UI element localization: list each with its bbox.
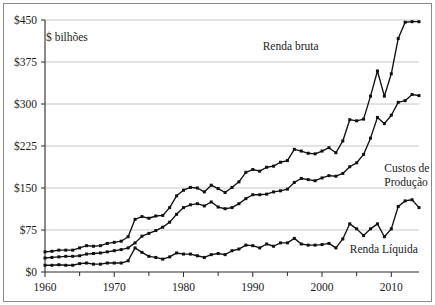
series-point [348,118,351,121]
series-point [362,234,365,237]
series-point [321,150,324,153]
series-point [307,178,310,181]
series-point [272,245,275,248]
series-point [168,255,171,258]
series-point [154,256,157,259]
series-point [64,255,67,258]
series-point [369,95,372,98]
series-point [50,264,53,267]
series-point [258,246,261,249]
series-point [85,262,88,265]
series-point [314,244,317,247]
series-point [383,235,386,238]
series-point [210,201,213,204]
series-point [57,263,60,266]
series-point [127,235,130,238]
series-point [418,20,421,23]
series-point [327,242,330,245]
series-point [217,206,220,209]
series-point [286,188,289,191]
series-point [147,255,150,258]
series-point [355,227,358,230]
series-point [293,237,296,240]
series-point [411,20,414,23]
series-point [196,187,199,190]
series-point [44,250,47,253]
series-1 [44,20,421,253]
series-point [127,259,130,262]
series-point [369,137,372,140]
series-point [64,249,67,252]
series-point [244,244,247,247]
series-point [272,165,275,168]
series-point [272,190,275,193]
series-point [397,37,400,40]
series-point [57,255,60,258]
series-point [231,249,234,252]
series-point [78,246,81,249]
series-point [300,150,303,153]
series-point [120,262,123,265]
series-point [341,172,344,175]
series-point [404,199,407,202]
y-tick-label: $75 [20,224,38,236]
series-point [147,232,150,235]
series-point [99,263,102,266]
series-point [355,161,358,164]
y-tick-label: $150 [14,182,37,194]
series-point [397,101,400,104]
series-point [300,243,303,246]
series-point [334,151,337,154]
series-point [251,244,254,247]
series-point [390,114,393,117]
series-point [348,165,351,168]
series-point [189,186,192,189]
series-point [168,206,171,209]
series-annotation-label: Renda bruta [263,40,319,52]
series-point [106,250,109,253]
series-point [321,243,324,246]
series-point [411,198,414,201]
series-line [45,22,419,252]
series-point [265,243,268,246]
series-point [224,191,227,194]
series-point [182,189,185,192]
series-point [265,166,268,169]
series-point [279,241,282,244]
series-point [224,253,227,256]
series-point [224,207,227,210]
series-point [327,174,330,177]
series-point [175,251,178,254]
series-point [376,69,379,72]
x-tick-label: 1970 [103,281,126,293]
series-point [244,171,247,174]
series-point [314,152,317,155]
series-point [307,244,310,247]
series-point [279,161,282,164]
series-point [182,253,185,256]
series-point [314,179,317,182]
series-point [397,205,400,208]
y-tick-label: $225 [14,140,37,152]
series-point [44,264,47,267]
series-point [258,170,261,173]
series-point [279,189,282,192]
gridlines [45,20,419,230]
series-point [113,249,116,252]
series-point [92,263,95,266]
series-point [376,222,379,225]
series-point [348,222,351,225]
series-point [154,229,157,232]
series-point [383,122,386,125]
series-point [203,256,206,259]
series-point [140,251,143,254]
series-point [78,262,81,265]
series-point [237,202,240,205]
series-point [161,258,164,261]
series-point [78,254,81,257]
series-point [175,194,178,197]
series-point [334,246,337,249]
series-point [293,181,296,184]
series-point [99,244,102,247]
series-point [231,206,234,209]
